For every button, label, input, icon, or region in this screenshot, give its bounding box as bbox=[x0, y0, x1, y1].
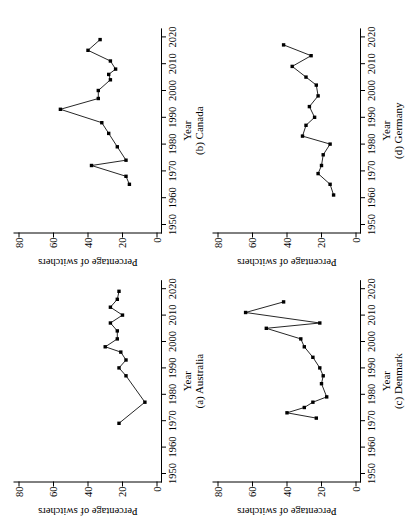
axes bbox=[213, 280, 365, 485]
axes bbox=[14, 28, 166, 236]
data-line bbox=[60, 39, 129, 184]
data-point-marker bbox=[307, 104, 310, 107]
x-tick-label: 1990 bbox=[167, 357, 178, 378]
y-axis-label: Percentage of switchers bbox=[237, 256, 337, 267]
subplot-b-canada: 1950196019701980199020002010202002040608… bbox=[13, 26, 205, 267]
data-point-marker bbox=[108, 305, 111, 308]
data-point-marker bbox=[319, 382, 322, 385]
figure-canvas: 1950196019701980199020002010202002040608… bbox=[0, 0, 415, 528]
data-point-marker bbox=[318, 321, 321, 324]
y-tick-label: 40 bbox=[281, 237, 292, 248]
data-point-marker bbox=[119, 350, 122, 353]
data-point-marker bbox=[311, 355, 314, 358]
y-tick-label: 20 bbox=[316, 237, 327, 248]
data-point-marker bbox=[311, 400, 314, 403]
x-tick-label: 1970 bbox=[167, 410, 178, 431]
data-point-marker bbox=[281, 300, 284, 303]
subplot-a-australia: 1950196019701980199020002010202002040608… bbox=[13, 278, 205, 516]
data-point-marker bbox=[314, 83, 317, 86]
switchers-line-chart-grid: 1950196019701980199020002010202002040608… bbox=[0, 0, 415, 528]
x-tick-label: 1980 bbox=[167, 383, 178, 404]
data-point-marker bbox=[316, 94, 319, 97]
x-tick-label: 1990 bbox=[366, 106, 377, 127]
data-point-marker bbox=[103, 345, 106, 348]
data-point-marker bbox=[117, 289, 120, 292]
x-tick-label: 1990 bbox=[167, 106, 178, 127]
subplot-caption: (b) Canada bbox=[193, 106, 206, 155]
data-point-marker bbox=[325, 395, 328, 398]
y-tick-label: 40 bbox=[281, 486, 292, 497]
x-tick-label: 1960 bbox=[167, 436, 178, 457]
data-point-marker bbox=[314, 416, 317, 419]
data-points bbox=[103, 289, 146, 424]
y-tick-label: 40 bbox=[82, 486, 93, 497]
data-point-marker bbox=[96, 96, 99, 99]
data-point-marker bbox=[318, 366, 321, 369]
data-point-marker bbox=[281, 43, 284, 46]
subplot-caption: (d) Germany bbox=[392, 101, 405, 158]
data-point-marker bbox=[124, 174, 127, 177]
y-tick-label: 60 bbox=[247, 486, 258, 497]
x-tick-label: 2000 bbox=[167, 331, 178, 352]
x-tick-label: 2010 bbox=[366, 304, 377, 325]
x-tick-label: 1960 bbox=[167, 187, 178, 208]
x-tick-label: 1950 bbox=[366, 463, 377, 484]
y-axis-label: Percentage of switchers bbox=[237, 505, 337, 516]
data-point-marker bbox=[328, 182, 331, 185]
data-line bbox=[105, 291, 145, 423]
data-point-marker bbox=[108, 321, 111, 324]
x-tick-label: 2010 bbox=[167, 304, 178, 325]
x-tick-label: 1970 bbox=[167, 160, 178, 181]
data-point-marker bbox=[124, 374, 127, 377]
data-point-marker bbox=[290, 64, 293, 67]
y-tick-label: 60 bbox=[48, 237, 59, 248]
y-tick-label: 40 bbox=[82, 237, 93, 248]
data-point-marker bbox=[107, 131, 110, 134]
data-point-marker bbox=[115, 337, 118, 340]
y-tick-label: 0 bbox=[151, 237, 162, 242]
data-point-marker bbox=[312, 115, 315, 118]
data-point-marker bbox=[89, 163, 92, 166]
x-tick-label: 2000 bbox=[366, 331, 377, 352]
data-point-marker bbox=[124, 158, 127, 161]
data-point-marker bbox=[300, 134, 303, 137]
x-tick-label: 1960 bbox=[366, 187, 377, 208]
x-tick-label: 1980 bbox=[167, 133, 178, 154]
x-tick-label: 2020 bbox=[366, 278, 377, 299]
data-line bbox=[245, 301, 326, 417]
y-tick-label: 0 bbox=[151, 486, 162, 491]
data-point-marker bbox=[127, 182, 130, 185]
data-points bbox=[281, 43, 334, 197]
y-tick-label: 80 bbox=[212, 237, 223, 248]
y-tick-label: 60 bbox=[48, 486, 59, 497]
data-point-marker bbox=[319, 163, 322, 166]
data-point-marker bbox=[115, 145, 118, 148]
x-tick-label: 1970 bbox=[366, 160, 377, 181]
data-point-marker bbox=[108, 59, 111, 62]
data-point-marker bbox=[304, 75, 307, 78]
data-point-marker bbox=[115, 297, 118, 300]
y-tick-label: 20 bbox=[117, 237, 128, 248]
x-tick-label: 1980 bbox=[366, 133, 377, 154]
y-tick-label: 20 bbox=[117, 486, 128, 497]
data-point-marker bbox=[143, 400, 146, 403]
data-point-marker bbox=[331, 193, 334, 196]
subplot-caption: (c) Denmark bbox=[392, 352, 405, 408]
x-tick-label: 2020 bbox=[167, 278, 178, 299]
x-tick-label: 1950 bbox=[366, 214, 377, 235]
x-tick-label: 1980 bbox=[366, 383, 377, 404]
data-point-marker bbox=[309, 54, 312, 57]
data-point-marker bbox=[264, 326, 267, 329]
y-tick-label: 80 bbox=[13, 237, 24, 248]
y-tick-label: 60 bbox=[247, 237, 258, 248]
data-point-marker bbox=[328, 142, 331, 145]
y-tick-label: 80 bbox=[13, 486, 24, 497]
x-tick-label: 2010 bbox=[167, 53, 178, 74]
data-point-marker bbox=[304, 123, 307, 126]
subplot-c-denmark: 1950196019701980199020002010202002040608… bbox=[212, 278, 404, 516]
x-tick-label: 1990 bbox=[366, 357, 377, 378]
y-tick-label: 20 bbox=[316, 486, 327, 497]
data-point-marker bbox=[117, 421, 120, 424]
x-axis-label: Year bbox=[379, 370, 391, 391]
data-point-marker bbox=[299, 337, 302, 340]
